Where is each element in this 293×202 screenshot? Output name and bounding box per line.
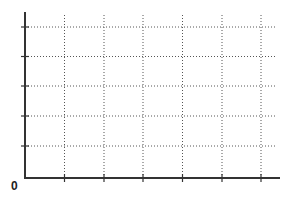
chart-area [0, 0, 293, 202]
horizontal-gridlines [25, 27, 276, 146]
origin-label: 0 [11, 179, 18, 193]
vertical-gridlines [65, 15, 262, 178]
